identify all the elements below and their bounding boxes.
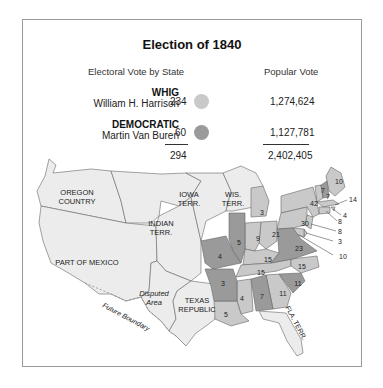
- votes-indiana: 9: [256, 235, 260, 242]
- label-iowa-1: IOWA: [179, 190, 199, 199]
- votes-kentucky: 15: [264, 256, 272, 263]
- label-wis-2: TERR.: [222, 199, 245, 208]
- votes-rhode-island: 4: [343, 212, 347, 219]
- votes-virginia: 23: [295, 245, 303, 252]
- label-indian-2: TERR.: [150, 228, 173, 237]
- label-texas-1: TEXAS: [185, 296, 210, 305]
- label-oregon-1: OREGON: [60, 188, 93, 197]
- votes-illinois: 5: [237, 239, 241, 246]
- label-iowa-2: TERR.: [178, 199, 201, 208]
- votes-arkansas: 3: [221, 280, 225, 287]
- votes-mississippi: 4: [240, 295, 244, 302]
- label-disputed-2: Area: [145, 298, 162, 307]
- votes-ohio: 21: [272, 231, 280, 238]
- label-oregon-2: COUNTRY: [59, 197, 96, 206]
- votes-louisiana: 5: [224, 311, 228, 318]
- label-disputed-1: Disputed: [139, 289, 169, 298]
- label-future-boundary: Future Boundary: [101, 301, 151, 333]
- votes-pennsylvania: 30: [301, 220, 309, 227]
- votes-connecticut: 8: [338, 218, 342, 225]
- state-massachusetts: [317, 200, 339, 207]
- us-map-1840: OREGON COUNTRY IOWA TERR. WIS. TERR. IND…: [23, 20, 363, 368]
- map-frame: Election of 1840 Electoral Vote by State…: [22, 19, 362, 367]
- votes-missouri: 4: [218, 253, 222, 260]
- votes-georgia: 11: [279, 290, 286, 297]
- label-indian-1: INDIAN: [148, 219, 173, 228]
- votes-alabama: 7: [260, 293, 264, 300]
- votes-delaware: 3: [338, 238, 342, 245]
- votes-vermont: 7: [321, 187, 325, 194]
- votes-north-carolina: 15: [298, 263, 306, 270]
- votes-maine: 10: [335, 178, 343, 185]
- votes-michigan: 3: [260, 209, 264, 216]
- label-wis-1: WIS.: [225, 190, 241, 199]
- label-mexico: PART OF MEXICO: [55, 258, 119, 267]
- label-texas-2: REPUBLIC: [178, 305, 216, 314]
- votes-massachusetts: 14: [349, 196, 357, 203]
- votes-tennessee: 15: [257, 269, 265, 276]
- votes-maryland: 10: [339, 253, 347, 260]
- votes-south-carolina: 11: [294, 280, 301, 287]
- votes-new-jersey: 8: [338, 228, 342, 235]
- votes-new-hampshire: 7: [326, 193, 330, 200]
- votes-new-york: 42: [310, 200, 318, 207]
